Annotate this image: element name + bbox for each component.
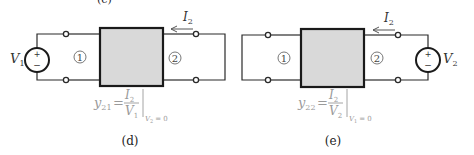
wire-d-left-bottom <box>37 72 66 80</box>
source-label-v1: V1 <box>10 51 24 68</box>
current-arrow-i2-e-icon <box>373 27 395 33</box>
port-1-label-e: 1 <box>278 52 290 64</box>
voltage-source-v2-icon: + − <box>416 48 440 72</box>
two-port-network-box-d <box>100 28 163 86</box>
figure-canvas: (c) + − V1 1 2 <box>0 0 474 155</box>
svg-text:I2: I2 <box>124 88 134 104</box>
terminal-d-1-top <box>63 31 68 36</box>
panel-e: + − V2 1 2 I2 y22 = I2 V2 V1= 0 (e <box>242 11 457 148</box>
two-port-network-box-e <box>301 29 364 87</box>
svg-text:y21: y21 <box>93 95 112 112</box>
svg-text:1: 1 <box>281 53 287 64</box>
panel-d: + − V1 1 2 I2 y21 = I2 V1 V2= 0 (d <box>10 10 225 148</box>
current-label-i2-d: I2 <box>182 10 193 26</box>
svg-text:2: 2 <box>374 53 380 64</box>
svg-text:+: + <box>425 50 432 59</box>
wire-d-left-top <box>37 34 66 48</box>
svg-text:V2= 0: V2= 0 <box>145 115 168 124</box>
short-circuit-d-right <box>198 34 225 80</box>
svg-text:y22: y22 <box>297 95 316 112</box>
terminal-d-2-bottom <box>193 77 198 82</box>
svg-text:V1= 0: V1= 0 <box>349 115 372 124</box>
terminal-d-1-bottom <box>63 77 68 82</box>
svg-text:V1: V1 <box>125 104 138 120</box>
partial-caption-c: (c) <box>97 0 112 6</box>
port-2-label-e: 2 <box>371 52 383 64</box>
voltage-source-v1-icon: + − <box>25 48 49 72</box>
source-label-v2: V2 <box>443 51 457 68</box>
svg-text:V2: V2 <box>329 104 342 120</box>
terminal-d-2-top <box>193 31 198 36</box>
svg-text:−: − <box>33 60 41 70</box>
svg-text:=: = <box>317 95 328 110</box>
svg-text:−: − <box>424 60 432 70</box>
port-2-label-d: 2 <box>169 52 181 64</box>
equation-y21: y21 = I2 V1 V2= 0 <box>93 88 168 124</box>
terminal-e-1-bottom <box>265 77 270 82</box>
equation-y22: y22 = I2 V2 V1= 0 <box>297 88 372 124</box>
current-arrow-i2-d-icon <box>171 26 193 32</box>
current-label-i2-e: I2 <box>383 11 394 27</box>
caption-d: (d) <box>121 134 138 148</box>
port-1-label-d: 1 <box>74 51 86 63</box>
svg-text:=: = <box>113 95 124 110</box>
terminal-e-1-top <box>265 32 270 37</box>
svg-text:+: + <box>34 50 41 59</box>
caption-e: (e) <box>325 134 341 148</box>
svg-text:I2: I2 <box>328 88 338 104</box>
short-circuit-e-left <box>242 35 266 80</box>
terminal-e-2-top <box>395 32 400 37</box>
wire-e-right-bottom <box>400 72 428 80</box>
terminal-e-2-bottom <box>395 77 400 82</box>
wire-e-right-top <box>400 35 428 48</box>
svg-text:2: 2 <box>172 53 178 64</box>
svg-text:1: 1 <box>77 52 83 63</box>
